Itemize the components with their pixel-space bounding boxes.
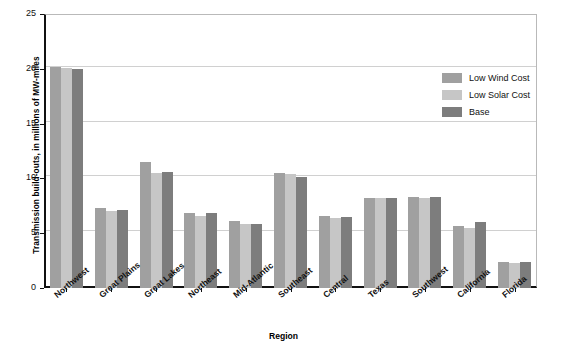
y-tick-label: 0: [10, 282, 36, 292]
y-axis-title: Transmission build-outs, in millions of …: [31, 20, 41, 290]
chart-legend: Low Wind CostLow Solar CostBase: [442, 70, 530, 121]
x-axis-title: Region: [0, 331, 567, 341]
y-tick-mark: [40, 233, 44, 234]
legend-label: Base: [469, 107, 490, 117]
bar-chart: Transmission build-outs, in millions of …: [0, 0, 567, 351]
legend-label: Low Wind Cost: [469, 73, 530, 83]
legend-swatch: [442, 107, 462, 117]
y-tick-label: 10: [10, 172, 36, 182]
legend-item: Low Wind Cost: [442, 70, 530, 86]
y-tick-label: 15: [10, 118, 36, 128]
y-tick-mark: [40, 288, 44, 289]
legend-label: Low Solar Cost: [469, 90, 530, 100]
gridline: [46, 230, 536, 231]
plot-area: [44, 14, 537, 288]
gridline: [46, 66, 536, 67]
y-tick-mark: [40, 14, 44, 15]
legend-swatch: [442, 73, 462, 83]
y-tick-mark: [40, 124, 44, 125]
y-tick-mark: [40, 178, 44, 179]
gridline: [46, 175, 536, 176]
legend-item: Base: [442, 104, 530, 120]
y-tick-mark: [40, 69, 44, 70]
y-tick-label: 5: [10, 227, 36, 237]
y-tick-label: 20: [10, 63, 36, 73]
legend-swatch: [442, 90, 462, 100]
legend-item: Low Solar Cost: [442, 87, 530, 103]
y-tick-label: 25: [10, 8, 36, 18]
